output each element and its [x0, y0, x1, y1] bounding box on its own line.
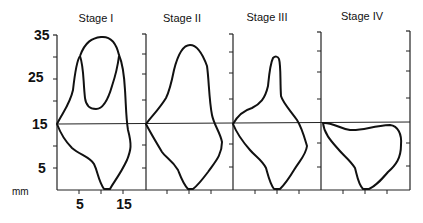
panel-title-stage-4: Stage IV: [341, 10, 384, 22]
panel-title-stage-2: Stage II: [163, 12, 201, 24]
y-tick-35: 35: [34, 27, 50, 43]
panel-title-stage-1: Stage I: [79, 12, 114, 24]
y-tick-5: 5: [38, 160, 46, 176]
x-tick-5: 5: [76, 196, 84, 212]
stage-2-outline: [146, 45, 222, 189]
panel-title-stage-3: Stage III: [247, 11, 288, 23]
stage-4-outline: [323, 123, 401, 189]
axes: [53, 31, 410, 194]
y-tick-15: 15: [32, 116, 48, 132]
y-unit-label: mm: [12, 186, 29, 197]
x-tick-15: 15: [116, 196, 132, 212]
y-tick-25: 25: [28, 69, 44, 85]
stage-outline-chart: Stage I Stage II Stage III Stage IV 35 2…: [0, 0, 423, 223]
stage-1-inner-loop: [80, 56, 119, 109]
stage-1-outline: [57, 37, 131, 189]
